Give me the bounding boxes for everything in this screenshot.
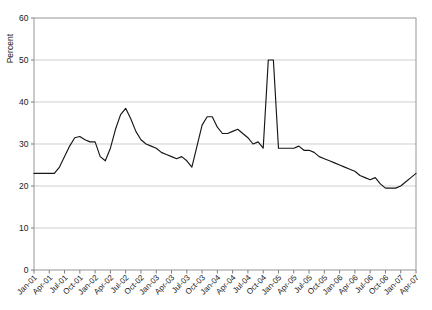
y-tick-label: 30 — [19, 139, 29, 149]
line-chart: 0102030405060 Jan-01Apr-01Jul-01Oct-01Ja… — [0, 0, 432, 310]
y-tick-label: 0 — [24, 265, 29, 275]
y-axis-title: Percent — [5, 33, 15, 63]
y-tick-label: 40 — [19, 97, 29, 107]
y-tick-label: 60 — [19, 13, 29, 23]
chart-canvas: 0102030405060 Jan-01Apr-01Jul-01Oct-01Ja… — [0, 0, 432, 310]
y-tick-label: 20 — [19, 181, 29, 191]
y-tick-label: 50 — [19, 55, 29, 65]
y-tick-label: 10 — [19, 223, 29, 233]
